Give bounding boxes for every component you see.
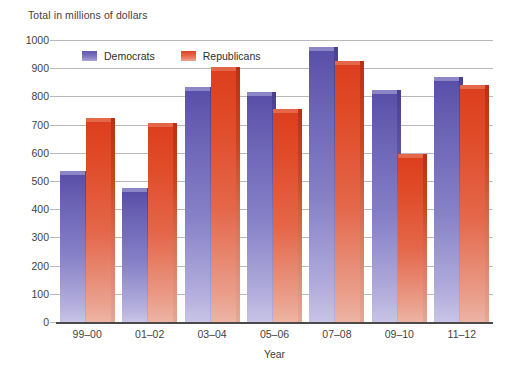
y-axis-tick-mark (50, 322, 56, 323)
bar-face (148, 127, 173, 322)
bar-democrats-01-02 (122, 192, 147, 322)
bar-democrats-05-06 (247, 96, 272, 322)
bar-democrats-07-08 (309, 51, 334, 322)
bar-face (460, 89, 485, 322)
bar-face (122, 192, 147, 322)
legend-label-democrats: Democrats (104, 50, 155, 62)
bar-face (434, 81, 459, 322)
legend-item-republicans: Republicans (181, 50, 261, 62)
bar-republicans-01-02 (148, 127, 173, 322)
x-axis-tick-labels: 99–0001–0203–0405–0607–0809–1011–12 (56, 328, 493, 344)
bar-side-face (298, 109, 302, 322)
bar-face (60, 175, 85, 322)
y-axis-tick-label: 100 (31, 288, 49, 300)
x-axis-tick-label: 01–02 (135, 328, 164, 340)
axis-baseline (56, 322, 493, 324)
legend-item-democrats: Democrats (82, 50, 155, 62)
x-axis-tick-label: 11–12 (448, 328, 476, 340)
plot-area: 01002003004005006007008009001000 (56, 40, 493, 322)
y-axis-tick-label: 700 (31, 119, 49, 131)
bar-democrats-09-10 (372, 94, 397, 322)
bar-democrats-11-12 (434, 81, 459, 322)
y-axis-tick-label: 200 (31, 260, 49, 272)
x-axis-title: Year (56, 348, 493, 360)
x-axis-tick-label: 07–08 (322, 328, 351, 340)
bar-republicans-05-06 (273, 113, 298, 322)
bar-side-face (360, 61, 364, 322)
y-axis-tick-label: 0 (43, 316, 49, 328)
y-axis-tick-label: 800 (31, 90, 49, 102)
x-axis-tick-label: 99–00 (73, 328, 102, 340)
bar-face (398, 158, 423, 322)
y-axis-tick-label: 600 (31, 147, 49, 159)
legend-label-republicans: Republicans (203, 50, 261, 62)
bar-face (185, 91, 210, 322)
legend-swatch-republicans-icon (181, 51, 196, 61)
bar-democrats-03-04 (185, 91, 210, 322)
legend: Democrats Republicans (82, 50, 261, 62)
y-axis-tick-label: 400 (31, 203, 49, 215)
y-axis-tick-label: 300 (31, 231, 49, 243)
bar-side-face (236, 67, 240, 322)
bar-face (309, 51, 334, 322)
bar-republicans-99-00 (86, 122, 111, 322)
bar-face (372, 94, 397, 322)
bar-republicans-09-10 (398, 158, 423, 322)
bar-side-face (485, 85, 489, 322)
bar-democrats-99-00 (60, 175, 85, 322)
bars-layer (56, 40, 493, 322)
bar-face (86, 122, 111, 322)
bar-republicans-03-04 (211, 71, 236, 322)
bar-face (247, 96, 272, 322)
bar-face (335, 65, 360, 322)
bar-side-face (111, 118, 115, 322)
y-axis-tick-label: 900 (31, 62, 49, 74)
bar-side-face (173, 123, 177, 322)
x-axis-tick-label: 05–06 (260, 328, 289, 340)
x-axis-tick-label: 09–10 (385, 328, 414, 340)
y-axis-tick-label: 1000 (26, 34, 49, 46)
x-axis-tick-label: 03–04 (197, 328, 226, 340)
y-axis-tick-label: 500 (31, 175, 49, 187)
bar-chart: Total in millions of dollars 01002003004… (0, 0, 521, 367)
legend-swatch-democrats-icon (82, 51, 97, 61)
bar-face (273, 113, 298, 322)
bar-side-face (423, 154, 427, 322)
y-axis-title: Total in millions of dollars (28, 9, 148, 21)
bar-face (211, 71, 236, 322)
bar-republicans-07-08 (335, 65, 360, 322)
bar-republicans-11-12 (460, 89, 485, 322)
